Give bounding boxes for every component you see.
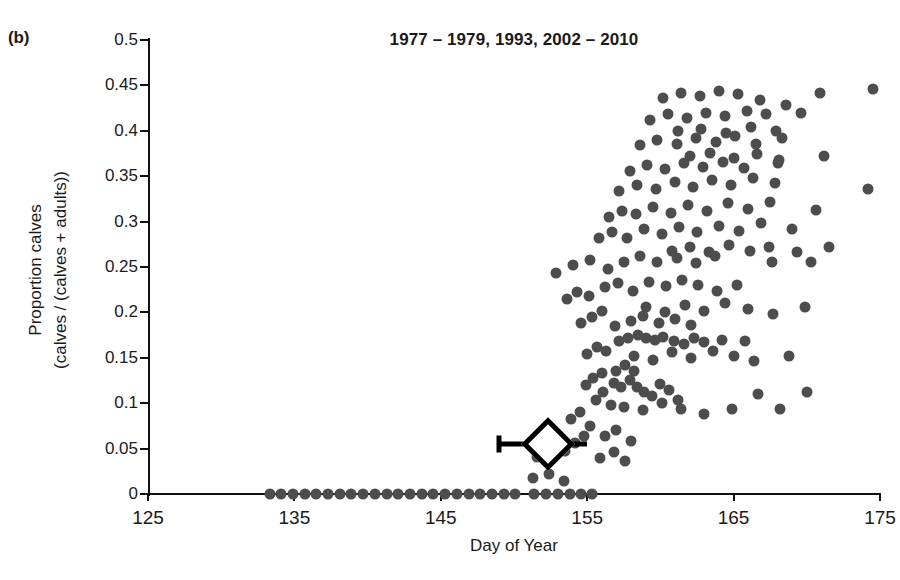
data-point xyxy=(475,489,486,500)
data-point xyxy=(358,489,369,500)
data-point xyxy=(711,136,722,147)
data-point xyxy=(771,125,782,136)
data-point xyxy=(571,287,582,298)
data-point xyxy=(596,305,607,316)
data-point xyxy=(781,100,792,111)
data-point xyxy=(713,85,724,96)
data-point xyxy=(721,127,732,138)
data-point xyxy=(598,387,609,398)
data-point xyxy=(620,456,631,467)
data-point xyxy=(756,218,767,229)
data-point xyxy=(323,489,334,500)
data-point xyxy=(276,489,287,500)
data-point xyxy=(561,293,572,304)
data-point xyxy=(749,356,760,367)
data-point xyxy=(648,354,659,365)
data-point xyxy=(602,263,613,274)
data-point xyxy=(299,489,310,500)
data-point xyxy=(498,489,509,500)
data-point xyxy=(583,291,594,302)
data-point xyxy=(686,352,697,363)
y-axis-tick-label: 0.05 xyxy=(60,440,138,457)
data-point xyxy=(867,84,878,95)
data-point xyxy=(451,489,462,500)
data-point xyxy=(678,339,689,350)
data-point xyxy=(369,489,380,500)
data-point xyxy=(528,472,539,483)
data-point xyxy=(670,176,681,187)
data-point xyxy=(703,247,714,258)
data-point xyxy=(675,87,686,98)
data-point xyxy=(656,398,667,409)
data-point xyxy=(728,350,739,361)
data-point xyxy=(564,489,575,500)
data-point xyxy=(716,334,727,345)
y-axis-tick-label: 0.4 xyxy=(60,122,138,139)
data-point xyxy=(624,165,635,176)
x-axis-tick-label: 175 xyxy=(840,508,900,527)
y-axis-tick-label: 0.5 xyxy=(60,31,138,48)
data-point xyxy=(334,489,345,500)
data-point xyxy=(773,154,784,165)
data-point xyxy=(667,347,678,358)
data-point xyxy=(674,222,685,233)
data-point xyxy=(652,134,663,145)
data-point xyxy=(747,173,758,184)
y-axis-tick xyxy=(140,39,148,41)
data-point xyxy=(659,307,670,318)
data-point xyxy=(795,107,806,118)
y-axis-tick xyxy=(140,221,148,223)
y-axis-tick-label: 0.45 xyxy=(60,76,138,93)
data-point xyxy=(699,409,710,420)
y-axis-tick xyxy=(140,175,148,177)
data-point xyxy=(658,93,669,104)
data-point xyxy=(775,403,786,414)
data-point xyxy=(612,278,623,289)
x-axis-title: Day of Year xyxy=(148,536,880,556)
data-point xyxy=(558,476,569,487)
data-point xyxy=(618,256,629,267)
data-point xyxy=(626,316,637,327)
y-axis-tick-label: 0 xyxy=(60,485,138,502)
data-point xyxy=(610,321,621,332)
y-axis-tick xyxy=(140,448,148,450)
data-point xyxy=(601,345,612,356)
data-point xyxy=(787,223,798,234)
data-point xyxy=(428,489,439,500)
data-point xyxy=(769,178,780,189)
data-point xyxy=(582,349,593,360)
data-point xyxy=(671,138,682,149)
data-point xyxy=(287,489,298,500)
data-point xyxy=(754,94,765,105)
data-point xyxy=(823,242,834,253)
data-point xyxy=(662,109,673,120)
data-point xyxy=(585,420,596,431)
data-point xyxy=(702,205,713,216)
y-axis-tick-label: 0.1 xyxy=(60,394,138,411)
data-point xyxy=(712,285,723,296)
data-point xyxy=(416,489,427,500)
panel-label: (b) xyxy=(8,28,29,48)
data-point xyxy=(763,242,774,253)
data-point xyxy=(611,425,622,436)
x-axis-tick-label: 165 xyxy=(694,508,774,527)
data-point xyxy=(705,147,716,158)
y-axis-tick-label: 0.25 xyxy=(60,258,138,275)
data-point xyxy=(684,151,695,162)
data-point xyxy=(626,436,637,447)
data-point xyxy=(750,138,761,149)
data-point xyxy=(608,447,619,458)
data-point xyxy=(634,140,645,151)
x-axis-tick xyxy=(733,493,735,501)
data-point xyxy=(801,387,812,398)
data-point xyxy=(665,207,676,218)
data-point xyxy=(694,91,705,102)
data-point xyxy=(719,298,730,309)
data-point xyxy=(680,300,691,311)
data-point xyxy=(727,403,738,414)
data-point xyxy=(552,489,563,500)
data-point xyxy=(760,109,771,120)
data-point xyxy=(686,320,697,331)
data-point xyxy=(766,257,777,268)
